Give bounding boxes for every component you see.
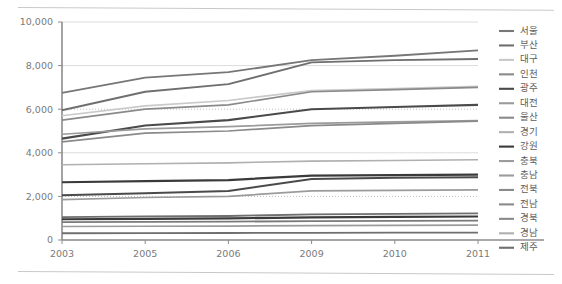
y-tick-label: 4,000	[26, 147, 53, 158]
legend-label-충북: 충북	[520, 155, 538, 166]
legend-label-경남: 경남	[520, 227, 538, 238]
y-tick-label: 2,000	[26, 191, 53, 202]
legend-label-부산: 부산	[520, 39, 538, 50]
x-tick-label: 2010	[383, 248, 407, 259]
chart-svg: 02,0004,0006,0008,00010,000 200320052006…	[0, 0, 562, 284]
series-lines	[62, 50, 478, 233]
y-tick-label: 0	[47, 234, 53, 245]
y-tick-label: 6,000	[26, 104, 53, 115]
x-tick-label: 2003	[50, 248, 74, 259]
legend: 서울부산대구인천광주대전울산경기강원충북충남전북전남경북경남제주	[499, 25, 538, 253]
legend-label-전북: 전북	[520, 183, 538, 194]
series-line-경남	[62, 225, 478, 226]
x-axis	[62, 240, 544, 244]
chart-page: 02,0004,0006,0008,00010,000 200320052006…	[0, 0, 562, 284]
x-tick-label: 2009	[300, 248, 324, 259]
series-line-충남	[62, 190, 478, 200]
x-tick-label: 2011	[466, 248, 490, 259]
legend-label-충남: 충남	[520, 169, 538, 180]
legend-label-강원: 강원	[520, 140, 538, 151]
legend-label-전남: 전남	[520, 198, 538, 209]
legend-label-대전: 대전	[520, 97, 538, 108]
x-tick-label: 2006	[216, 248, 240, 259]
series-line-제주	[62, 233, 478, 234]
legend-label-인천: 인천	[520, 68, 538, 79]
series-line-서울	[62, 50, 478, 93]
y-axis	[58, 22, 62, 240]
legend-label-서울: 서울	[520, 25, 538, 36]
line-chart: 02,0004,0006,0008,00010,000 200320052006…	[0, 0, 562, 284]
legend-label-광주: 광주	[520, 82, 538, 93]
y-tick-label: 10,000	[20, 16, 53, 27]
y-tick-labels: 02,0004,0006,0008,00010,000	[20, 16, 53, 245]
legend-label-경북: 경북	[520, 212, 538, 223]
series-line-경기	[62, 160, 478, 165]
x-tick-labels: 200320052006200920102011	[50, 248, 490, 259]
legend-label-경기: 경기	[520, 126, 538, 137]
x-tick-label: 2005	[133, 248, 157, 259]
legend-label-대구: 대구	[520, 53, 538, 64]
y-tick-label: 8,000	[26, 60, 53, 71]
series-line-경북	[62, 221, 478, 223]
series-line-충북	[62, 177, 478, 195]
legend-label-제주: 제주	[520, 241, 538, 252]
legend-label-울산: 울산	[520, 111, 538, 122]
